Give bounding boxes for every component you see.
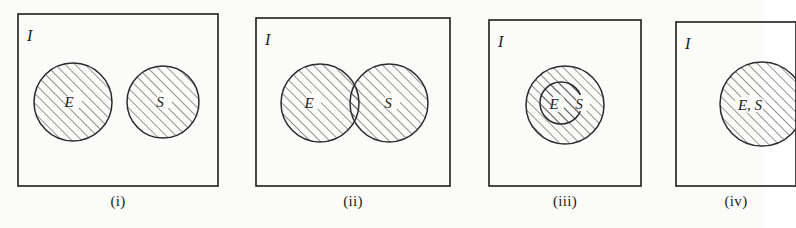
universe-label-iv: I — [684, 35, 691, 52]
set-label-es-iv: E, S — [737, 97, 763, 113]
caption-iv: (iv) — [676, 193, 796, 210]
